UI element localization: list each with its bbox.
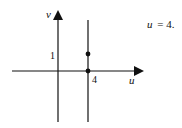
u-axis-label: u bbox=[129, 74, 135, 86]
v-tick-label: 1 bbox=[50, 50, 55, 61]
equation-label: u = 4. bbox=[147, 18, 175, 30]
v-axis-arrowhead-icon bbox=[53, 10, 63, 20]
v-axis-label: v bbox=[46, 8, 51, 20]
equation-rhs: = 4. bbox=[157, 18, 174, 30]
equation-lhs: u bbox=[147, 18, 153, 30]
u-tick-label: 4 bbox=[92, 74, 97, 85]
point-4-1 bbox=[86, 52, 91, 57]
uv-plane-diagram: v 1 4 u u = 4. bbox=[0, 0, 182, 128]
point-4-0 bbox=[86, 69, 91, 74]
u-axis-arrowhead-icon bbox=[134, 66, 144, 76]
